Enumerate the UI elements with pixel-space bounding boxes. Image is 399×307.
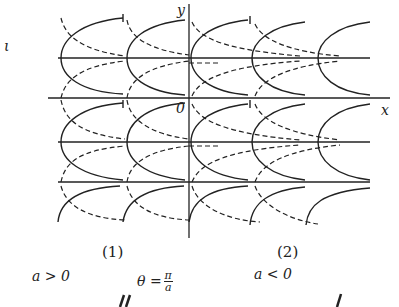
theta-denominator: a	[164, 282, 173, 293]
solid-trajectories	[58, 14, 370, 225]
phase-portrait-diagram	[0, 0, 399, 307]
left-margin-label: ι	[4, 38, 10, 54]
y-axis-label: y	[177, 2, 185, 18]
theta-fraction: πa	[164, 270, 173, 293]
condition-a-negative: a < 0	[254, 266, 292, 282]
condition-a-positive: a > 0	[32, 268, 70, 284]
panel-2-label: (2)	[277, 243, 298, 261]
panel-1-label: (1)	[102, 243, 123, 261]
origin-label: 0	[176, 100, 185, 116]
x-axis-label: x	[381, 102, 389, 118]
theta-equation: θ =πa	[137, 270, 173, 293]
theta-lhs: θ =	[137, 273, 162, 289]
